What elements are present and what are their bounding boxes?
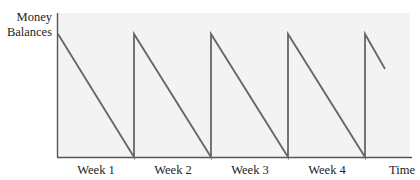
chart-plot [0,0,420,180]
x-axis-label: Time [389,163,415,178]
x-tick-week-1: Week 1 [77,163,115,178]
x-tick-week-2: Week 2 [154,163,192,178]
plot-background [58,13,410,157]
x-tick-week-3: Week 3 [231,163,269,178]
x-tick-week-4: Week 4 [308,163,346,178]
